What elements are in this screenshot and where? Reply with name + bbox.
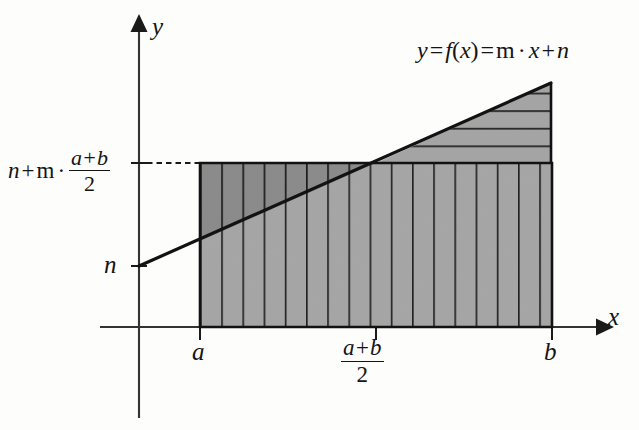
- y-value-multiply-dot: ·: [54, 159, 68, 182]
- y-intercept-label: n: [104, 252, 117, 277]
- y-axis: [131, 14, 148, 418]
- plot-canvas: [0, 0, 639, 430]
- y-value-fraction-denominator: 2: [69, 171, 110, 195]
- formula-slope-m: m: [496, 37, 515, 63]
- x-tick-label-a: a: [192, 339, 205, 364]
- x-axis-label: x: [608, 304, 619, 329]
- y-value-n: n: [8, 159, 20, 182]
- y-axis-label: y: [152, 14, 163, 39]
- y-value-plus: +: [20, 159, 37, 182]
- y-value-fraction-numerator: a+b: [69, 146, 110, 171]
- formula-open-paren: (: [452, 37, 460, 63]
- midpoint-fraction-denominator: 2: [341, 362, 384, 387]
- formula-equals-2: =: [479, 37, 497, 63]
- midpoint-fraction: a+b 2: [341, 336, 384, 387]
- midpoint-fraction-numerator: a+b: [341, 336, 384, 362]
- formula-close-paren: ): [471, 37, 479, 63]
- y-axis-value-label: n+m· a+b 2: [8, 146, 111, 195]
- x-tick-label-b: b: [544, 339, 557, 364]
- y-value-fraction: a+b 2: [69, 146, 110, 195]
- formula-equals-1: =: [428, 37, 446, 63]
- x-tick-label-midpoint: a+b 2: [340, 336, 385, 387]
- math-figure: y x y=f(x)=m·x+n n+m· a+b 2 n a a+b 2 b: [0, 0, 639, 430]
- formula-intercept-n: n: [557, 37, 569, 63]
- formula-plus: +: [539, 37, 557, 63]
- formula-x-variable: x: [529, 37, 540, 63]
- function-formula: y=f(x)=m·x+n: [417, 38, 569, 62]
- formula-multiply-dot: ·: [515, 37, 529, 63]
- formula-f: f: [445, 37, 452, 63]
- y-value-m: m: [36, 159, 54, 182]
- formula-x-argument: x: [460, 37, 471, 63]
- formula-y: y: [417, 37, 428, 63]
